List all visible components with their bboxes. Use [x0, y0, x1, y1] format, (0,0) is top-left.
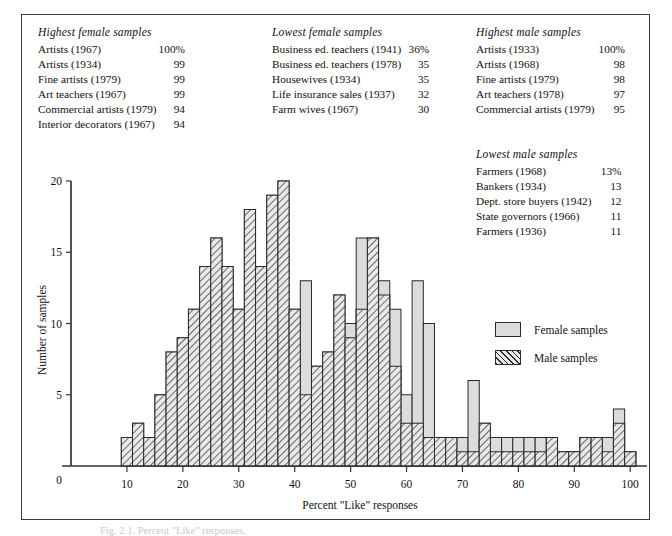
table-row: Commercial artists (1979)94 — [38, 103, 185, 118]
figure-caption: Fig. 2.1. Percent "Like" responses. — [100, 525, 246, 536]
sample-name: State governors (1966) — [476, 210, 591, 225]
table-row: Bankers (1934)13 — [476, 180, 621, 195]
legend-item-male: Male samples — [495, 350, 608, 365]
sample-name: Fine artists (1979) — [476, 73, 595, 88]
list-lowest-male-samples: Lowest male samples Farmers (1968)13% Ba… — [476, 148, 621, 240]
sample-table: Business ed. teachers (1941)36% Business… — [272, 43, 429, 118]
legend-swatch-male-icon — [495, 350, 521, 365]
sample-value: 12 — [591, 195, 621, 210]
table-row: Artists (1933)100% — [476, 43, 625, 58]
sample-value: 98 — [595, 73, 625, 88]
chart-legend: Female samples Male samples — [495, 322, 608, 378]
sample-value: 95 — [595, 103, 625, 118]
table-row: Farmers (1968)13% — [476, 165, 621, 180]
list-title: Highest male samples — [476, 26, 625, 38]
sample-name: Farmers (1968) — [476, 165, 591, 180]
sample-table: Artists (1967)100% Artists (1934)99 Fine… — [38, 43, 185, 134]
table-row: Business ed. teachers (1978)35 — [272, 58, 429, 73]
sample-name: Commercial artists (1979) — [476, 103, 595, 118]
sample-value: 30 — [401, 103, 429, 118]
sample-name: Artists (1933) — [476, 43, 595, 58]
table-row: Life insurance sales (1937)32 — [272, 88, 429, 103]
list-highest-male-samples: Highest male samples Artists (1933)100% … — [476, 26, 625, 118]
table-row: Artists (1967)100% — [38, 43, 185, 58]
sample-name: Life insurance sales (1937) — [272, 88, 401, 103]
sample-name: Business ed. teachers (1978) — [272, 58, 401, 73]
legend-swatch-female-icon — [495, 322, 521, 337]
table-row: Dept. store buyers (1942)12 — [476, 195, 621, 210]
table-row: State governors (1966)11 — [476, 210, 621, 225]
table-row: Art teachers (1967)99 — [38, 88, 185, 103]
table-row: Fine artists (1979)98 — [476, 73, 625, 88]
sample-value: 11 — [591, 225, 621, 240]
sample-name: Commercial artists (1979) — [38, 103, 157, 118]
sample-name: Farm wives (1967) — [272, 103, 401, 118]
sample-table: Farmers (1968)13% Bankers (1934)13 Dept.… — [476, 165, 621, 240]
sample-name: Art teachers (1967) — [38, 88, 157, 103]
sample-value: 13 — [591, 180, 621, 195]
list-highest-female-samples: Highest female samples Artists (1967)100… — [38, 26, 185, 134]
table-row: Business ed. teachers (1941)36% — [272, 43, 429, 58]
table-row: Farm wives (1967)30 — [272, 103, 429, 118]
sample-name: Dept. store buyers (1942) — [476, 195, 591, 210]
sample-value: 11 — [591, 210, 621, 225]
table-row: Housewives (1934)35 — [272, 73, 429, 88]
sample-name: Artists (1934) — [38, 58, 157, 73]
sample-value: 99 — [157, 73, 185, 88]
sample-value: 100% — [157, 43, 185, 58]
table-row: Artists (1968)98 — [476, 58, 625, 73]
list-title: Highest female samples — [38, 26, 185, 38]
table-row: Art teachers (1978)97 — [476, 88, 625, 103]
sample-value: 94 — [157, 103, 185, 118]
sample-value: 99 — [157, 58, 185, 73]
sample-value: 13% — [591, 165, 621, 180]
sample-value: 99 — [157, 88, 185, 103]
sample-table: Artists (1933)100% Artists (1968)98 Fine… — [476, 43, 625, 118]
table-row: Interior decorators (1967)94 — [38, 118, 185, 133]
legend-item-female: Female samples — [495, 322, 608, 337]
sample-value: 97 — [595, 88, 625, 103]
sample-name: Housewives (1934) — [272, 73, 401, 88]
sample-value: 32 — [401, 88, 429, 103]
table-row: Artists (1934)99 — [38, 58, 185, 73]
list-lowest-female-samples: Lowest female samples Business ed. teach… — [272, 26, 429, 118]
table-row: Commercial artists (1979)95 — [476, 103, 625, 118]
sample-value: 36% — [401, 43, 429, 58]
sample-value: 94 — [157, 118, 185, 133]
list-title: Lowest male samples — [476, 148, 621, 160]
list-title: Lowest female samples — [272, 26, 429, 38]
legend-label: Male samples — [534, 352, 598, 364]
table-row: Farmers (1936)11 — [476, 225, 621, 240]
sample-name: Interior decorators (1967) — [38, 118, 157, 133]
sample-value: 35 — [401, 73, 429, 88]
sample-name: Bankers (1934) — [476, 180, 591, 195]
sample-name: Art teachers (1978) — [476, 88, 595, 103]
sample-name: Artists (1968) — [476, 58, 595, 73]
sample-name: Business ed. teachers (1941) — [272, 43, 401, 58]
table-row: Fine artists (1979)99 — [38, 73, 185, 88]
sample-name: Fine artists (1979) — [38, 73, 157, 88]
sample-value: 98 — [595, 58, 625, 73]
sample-name: Farmers (1936) — [476, 225, 591, 240]
sample-name: Artists (1967) — [38, 43, 157, 58]
legend-label: Female samples — [534, 324, 608, 336]
sample-value: 100% — [595, 43, 625, 58]
sample-value: 35 — [401, 58, 429, 73]
